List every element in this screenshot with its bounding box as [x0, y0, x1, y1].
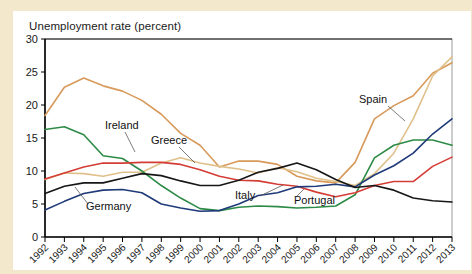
y-tick-label: 15 — [26, 132, 38, 144]
series-label-italy: Italy — [235, 189, 256, 201]
x-tick-label: 2000 — [182, 241, 206, 265]
x-tick-label: 2011 — [396, 241, 419, 264]
x-tick-label: 2001 — [201, 241, 225, 265]
x-tick-label: 2012 — [415, 241, 439, 265]
x-tick-label: 2013 — [434, 241, 458, 265]
x-tick-label: 1993 — [46, 241, 70, 265]
x-tick-label: 1995 — [85, 241, 109, 265]
x-tick-label: 2005 — [279, 241, 303, 265]
x-tick-label: 1997 — [124, 241, 148, 265]
y-tick-label: 20 — [26, 99, 38, 111]
x-tick-label: 1996 — [104, 241, 128, 265]
y-tick-label: 0 — [32, 231, 38, 243]
leader-line-greece — [179, 147, 195, 163]
x-tick-label: 1994 — [66, 241, 90, 265]
x-tick-label: 2004 — [259, 241, 283, 265]
x-tick-label: 1992 — [27, 241, 51, 265]
chart-card: Unemployment rate (percent) 051015202530… — [13, 11, 471, 270]
y-tick-label: 5 — [32, 198, 38, 210]
series-label-portugal: Portugal — [294, 194, 335, 206]
x-tick-label: 2009 — [356, 241, 380, 265]
y-tick-label: 10 — [26, 165, 38, 177]
x-tick-label: 1999 — [163, 241, 187, 265]
series-label-greece: Greece — [151, 134, 187, 146]
chart-frame: Unemployment rate (percent) 051015202530… — [0, 0, 472, 274]
x-tick-label: 2003 — [240, 241, 264, 265]
x-tick-label: 2010 — [376, 241, 400, 265]
x-tick-label: 2006 — [298, 241, 322, 265]
x-tick-label: 2007 — [318, 241, 342, 265]
y-tick-label: 30 — [26, 33, 38, 45]
x-tick-label: 1998 — [143, 241, 167, 265]
line-chart: 0510152025301992199319941995199619971998… — [13, 11, 471, 270]
x-tick-label: 2002 — [221, 241, 245, 265]
leader-line-ireland — [125, 132, 135, 152]
leader-line-spain — [388, 106, 405, 121]
series-label-spain: Spain — [359, 93, 387, 105]
series-label-ireland: Ireland — [105, 119, 139, 131]
series-label-germany: Germany — [86, 200, 132, 212]
y-tick-label: 25 — [26, 66, 38, 78]
x-tick-label: 2008 — [337, 241, 361, 265]
